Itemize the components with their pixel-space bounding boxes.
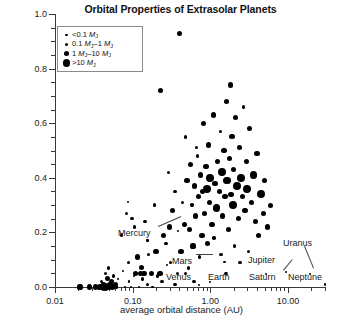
scatter-point: [203, 164, 208, 169]
scatter-point: [243, 185, 251, 193]
y-tick-minor: [51, 260, 55, 261]
x-tick-major: [210, 287, 211, 293]
scatter-point: [112, 274, 115, 277]
y-tick-minor: [51, 273, 55, 274]
scatter-point: [173, 190, 176, 193]
y-tick-minor: [51, 205, 55, 206]
scatter-point: [164, 242, 167, 245]
scatter-point: [193, 213, 198, 218]
scatter-point: [198, 255, 201, 258]
scatter-point: [160, 280, 163, 283]
x-tick-minor: [276, 287, 277, 291]
y-tick-minor: [51, 55, 55, 56]
legend-dot-icon: [61, 34, 72, 36]
scatter-point: [141, 277, 144, 280]
scatter-point: [228, 82, 233, 87]
x-tick-minor: [280, 287, 281, 291]
x-tick-minor: [257, 287, 258, 291]
x-tick-label: 0.10: [124, 296, 142, 306]
scatter-point: [240, 194, 245, 199]
y-tick-minor: [51, 110, 55, 111]
scatter-point: [253, 219, 258, 224]
scatter-point: [203, 185, 211, 193]
scatter-point: [146, 283, 149, 286]
scatter-point: [184, 178, 189, 183]
scatter-point: [242, 208, 247, 213]
x-tick-minor: [187, 287, 188, 291]
legend-dot-icon: [61, 43, 72, 46]
x-tick-label: 10.00: [277, 296, 300, 306]
scatter-point: [212, 181, 217, 186]
scatter-point: [141, 271, 146, 276]
scatter-point: [196, 194, 201, 199]
planet-label-uranus: Uranus: [283, 238, 312, 248]
x-tick-minor: [179, 287, 180, 291]
scatter-point: [236, 216, 241, 221]
scatter-point: [178, 249, 183, 254]
scatter-point: [233, 182, 241, 190]
legend-dot-icon: [61, 51, 72, 56]
y-tick-minor: [51, 96, 55, 97]
scatter-point: [233, 244, 236, 247]
x-tick-minor: [265, 287, 266, 291]
scatter-point: [190, 203, 193, 206]
scatter-point: [219, 253, 222, 256]
scatter-point: [237, 174, 245, 182]
y-tick-major: [49, 232, 55, 233]
scatter-point: [122, 270, 124, 272]
y-tick-major: [49, 69, 55, 70]
legend-dot-icon: [61, 59, 72, 67]
chart-figure: Orbital Properties of Extrasolar Planets…: [0, 0, 339, 327]
scatter-point: [87, 284, 92, 289]
y-tick-minor: [51, 28, 55, 29]
x-tick-minor: [121, 287, 122, 291]
scatter-point: [238, 261, 241, 264]
scatter-point: [128, 280, 130, 282]
y-tick-label: 1.0: [34, 9, 47, 19]
y-tick-label: 0.0: [34, 282, 47, 292]
scatter-point: [104, 272, 107, 275]
planet-label-earth: Earth: [208, 272, 230, 282]
x-tick-minor: [156, 287, 157, 291]
scatter-point: [247, 126, 252, 131]
planet-label-saturn: Saturn: [249, 272, 276, 282]
scatter-point: [228, 192, 233, 197]
scatter-point: [207, 200, 212, 205]
scatter-point: [262, 178, 267, 183]
scatter-point: [201, 121, 206, 126]
y-tick-minor: [51, 219, 55, 220]
scatter-point: [138, 286, 140, 288]
y-tick-major: [49, 14, 55, 15]
scatter-point: [265, 224, 270, 229]
scatter-point: [177, 230, 179, 232]
scatter-point: [182, 222, 187, 227]
scatter-point: [166, 264, 168, 266]
scatter-point: [173, 283, 176, 286]
scatter-point: [153, 249, 158, 254]
scatter-point: [257, 190, 265, 198]
x-tick-major: [288, 287, 289, 293]
x-tick-minor: [207, 287, 208, 291]
scatter-point: [127, 261, 130, 264]
scatter-point: [135, 254, 140, 259]
scatter-point: [198, 284, 200, 286]
scatter-point: [143, 220, 146, 223]
scatter-point: [229, 134, 234, 139]
scatter-point: [224, 99, 229, 104]
y-tick-major: [49, 178, 55, 179]
scatter-point: [247, 250, 250, 253]
leader-line-mars: [196, 254, 213, 255]
scatter-point: [161, 233, 166, 238]
x-tick-minor: [271, 287, 272, 291]
scatter-point: [188, 162, 193, 167]
planet-label-neptune: Neptune: [288, 272, 322, 282]
scatter-point: [77, 284, 82, 289]
scatter-point: [213, 204, 221, 212]
x-tick-minor: [284, 287, 285, 291]
scatter-point: [217, 189, 222, 194]
x-tick-major: [133, 287, 134, 293]
scatter-point: [167, 224, 172, 229]
legend-item-label: >10 MJ: [72, 58, 96, 69]
planet-label-mars: Mars: [172, 256, 192, 266]
scatter-point: [256, 233, 261, 238]
